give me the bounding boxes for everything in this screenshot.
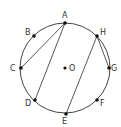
center-point: [63, 66, 66, 69]
point-label-f: F: [100, 99, 105, 108]
point-label-h: H: [100, 28, 106, 37]
point-label-b: B: [25, 28, 31, 37]
point-c: [19, 66, 23, 70]
circle-diagram: ABCDEFGH O: [0, 0, 121, 127]
segment-he: [66, 36, 97, 114]
point-label-a: A: [62, 11, 68, 20]
point-label-g: G: [111, 64, 117, 73]
point-h: [95, 34, 99, 38]
point-label-c: C: [10, 64, 16, 73]
point-a: [63, 21, 67, 25]
point-label-e: E: [62, 117, 67, 126]
point-label-d: D: [25, 99, 31, 108]
point-d: [33, 98, 37, 102]
point-e: [64, 112, 68, 116]
center-label: O: [69, 64, 75, 73]
segment-ad: [35, 23, 65, 100]
point-b: [32, 34, 36, 38]
point-f: [95, 98, 99, 102]
